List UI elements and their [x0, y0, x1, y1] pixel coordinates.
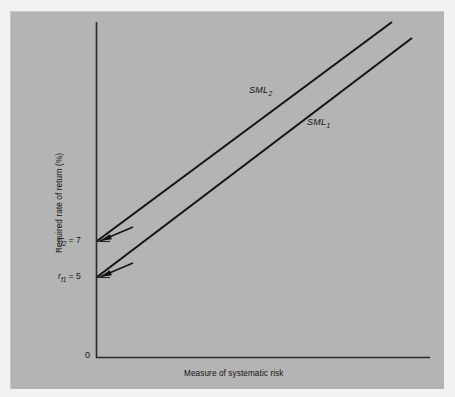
series-label-sml2-text: SML [249, 85, 268, 95]
axis-tick-label-rf1-value: 5 [76, 271, 81, 281]
axis-tick-label-rf1: rf1 = 5 [58, 272, 81, 283]
axis-tick-label-rf2-value: 7 [76, 235, 81, 245]
series-label-sml1: SML1 [307, 118, 330, 129]
y-axis-title: Required rate of return (%) [56, 153, 64, 253]
series-label-sml2-subscript: 2 [268, 90, 272, 97]
series-line-sml1 [97, 38, 412, 277]
series-label-sml1-subscript: 1 [326, 122, 330, 129]
series-line-sml2 [97, 22, 392, 241]
x-axis-title: Measure of systematic risk [184, 370, 284, 378]
axis-tick-label-rf2-equals: = [66, 235, 76, 245]
chart-canvas [0, 0, 455, 397]
series-label-sml2: SML2 [249, 86, 272, 97]
chart-figure: SML2 SML1 rf2 = 7 rf1 = 5 0 Required rat… [0, 0, 455, 397]
axis-tick-label-rf1-equals: = [66, 271, 76, 281]
series-label-sml1-text: SML [307, 117, 326, 127]
origin-label: 0 [85, 351, 90, 360]
